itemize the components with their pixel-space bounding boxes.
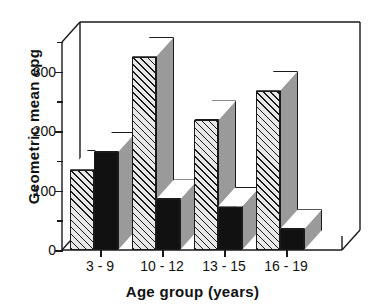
bar-black-group-3 [218, 187, 260, 250]
bar-front-face [156, 199, 180, 250]
x-axis-tick-label: 16 - 19 [246, 258, 326, 274]
bar-front-face [194, 120, 218, 250]
y-axis-tick-label: 300 [22, 67, 56, 77]
x-axis-tick-mark [162, 250, 164, 257]
x-axis-title: Age group (years) [0, 283, 385, 300]
y-axis-tick-label: 200 [22, 126, 56, 136]
bar-front-face [218, 207, 242, 250]
y-axis-tick-label: 0 [22, 245, 56, 255]
y-axis-tick-label: 100 [22, 186, 56, 196]
y-axis-tick-labels: 0100200300 [18, 0, 56, 304]
bar-chart-figure: Geometric mean epg 0100200300 3 - 910 - … [0, 0, 385, 304]
x-axis-tick-mark [100, 250, 102, 257]
bar-front-face [70, 170, 94, 250]
x-axis-tick-mark [224, 250, 226, 257]
bar-front-face [132, 57, 156, 250]
bar-black-group-2 [156, 179, 198, 250]
bar-front-face [280, 229, 304, 250]
bar-front-face [94, 152, 118, 250]
plot-area [62, 8, 362, 251]
bar-black-group-1 [94, 132, 136, 250]
bar-front-face [256, 91, 280, 250]
x-axis-tick-mark [286, 250, 288, 257]
bar-black-group-4 [280, 209, 322, 250]
